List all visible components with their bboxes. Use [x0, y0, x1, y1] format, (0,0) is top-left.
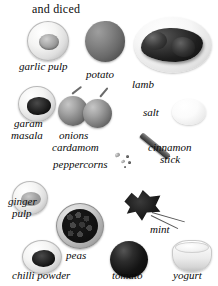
ingredient-figure: and diced garlic pulp potato lamb garam … [0, 0, 218, 286]
label-tomato: tomato [112, 270, 143, 282]
lamb-plate [134, 17, 212, 73]
onion-bulb [83, 99, 112, 128]
label-lamb: lamb [132, 79, 154, 91]
peas-bowl [56, 203, 104, 249]
garlic-pulp-contents [39, 34, 59, 50]
label-cinnamon-line2: stick [160, 154, 180, 166]
label-cardamom: cardamom [52, 142, 99, 154]
peppercorn-seed [126, 155, 129, 158]
label-ginger-line2: pulp [12, 208, 32, 220]
lamb-chunk [171, 37, 195, 57]
yogurt-tub [172, 240, 212, 272]
label-ginger-line1: ginger [8, 196, 37, 208]
label-cinnamon-line1: cinnamon [148, 142, 191, 154]
label-potato: potato [86, 69, 114, 81]
peppercorn-seed [128, 161, 131, 164]
lamb-meat [141, 28, 203, 62]
garam-masala-contents [27, 97, 51, 115]
onion-stem [71, 86, 82, 95]
label-garam-masala-line1: garam [14, 118, 43, 130]
peppercorn-seed [124, 166, 126, 168]
label-garam-masala-line2: masala [11, 130, 43, 142]
onion-stem [99, 87, 108, 97]
label-chilli-powder: chilli powder [12, 270, 70, 282]
figure-heading: and diced [32, 2, 80, 17]
cardamom-pod [121, 159, 126, 163]
label-peppercorns: peppercorns [53, 159, 108, 171]
potato-specimen [85, 21, 125, 62]
label-yogurt: yogurt [173, 270, 202, 282]
yogurt-tub-rim [175, 242, 209, 253]
peas-contents [62, 209, 98, 243]
chilli-powder-contents [32, 250, 55, 267]
salt-dish [172, 99, 206, 125]
label-garlic-pulp: garlic pulp [19, 61, 68, 73]
label-peas: peas [66, 250, 86, 262]
label-salt: salt [143, 107, 159, 119]
label-onions: onions [59, 130, 88, 142]
label-mint: mint [150, 224, 170, 236]
cardamom-pod [114, 152, 120, 158]
garlic-pulp-bowl [27, 21, 69, 61]
lamb-chunk [145, 32, 167, 50]
